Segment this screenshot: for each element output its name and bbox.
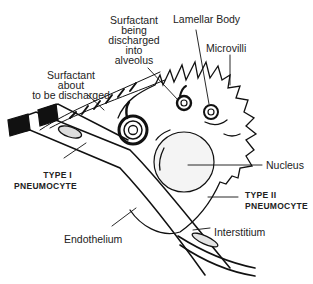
label-type-i-pneumocyte: TYPE I PNEUMOCYTE xyxy=(14,170,72,192)
label-lamellar-body: Lamellar Body xyxy=(173,14,240,24)
label-line: alveolus xyxy=(104,55,164,65)
label-line: PNEUMOCYTE xyxy=(245,201,308,212)
label-surfactant-being-discharged: Surfactant being discharged into alveolu… xyxy=(104,15,164,65)
label-nucleus: Nucleus xyxy=(266,160,304,170)
label-endothelium: Endothelium xyxy=(64,234,122,244)
label-line: TYPE II xyxy=(245,190,308,201)
lamellar-body-shape xyxy=(204,105,218,119)
label-line: PNEUMOCYTE xyxy=(14,181,72,192)
label-type-ii-pneumocyte: TYPE II PNEUMOCYTE xyxy=(245,190,308,212)
nucleus-shape xyxy=(154,132,214,192)
label-microvilli: Microvilli xyxy=(206,43,246,53)
label-surfactant-about-to-be-discharged: Surfactant about to be discharged xyxy=(28,70,114,100)
label-line: to be discharged xyxy=(28,90,114,100)
label-line: TYPE I xyxy=(14,170,72,181)
label-interstitium: Interstitium xyxy=(214,227,265,237)
